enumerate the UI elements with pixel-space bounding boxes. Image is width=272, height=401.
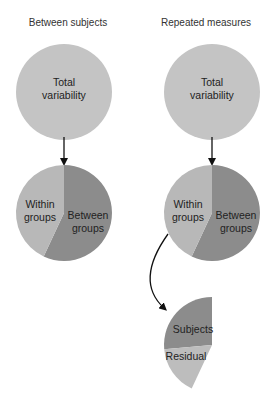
svg-text:Within: Within bbox=[173, 198, 202, 210]
svg-text:variability: variability bbox=[42, 89, 87, 101]
curved-arrow bbox=[150, 234, 168, 308]
total-variability-circle-right: Total variability bbox=[164, 44, 260, 140]
svg-text:Total: Total bbox=[201, 76, 223, 88]
svg-text:Total: Total bbox=[53, 76, 75, 88]
svg-text:variability: variability bbox=[190, 89, 235, 101]
diagram: Total variability Within groups Between … bbox=[0, 0, 272, 401]
svg-text:Within: Within bbox=[25, 198, 54, 210]
svg-text:Subjects: Subjects bbox=[173, 323, 213, 335]
svg-text:groups: groups bbox=[24, 211, 56, 223]
svg-text:groups: groups bbox=[72, 222, 104, 234]
svg-text:groups: groups bbox=[172, 211, 204, 223]
svg-text:Residual: Residual bbox=[166, 350, 207, 362]
pie-right: Within groups Between groups bbox=[164, 165, 260, 261]
svg-text:Between: Between bbox=[68, 209, 109, 221]
svg-text:Between: Between bbox=[216, 209, 257, 221]
total-variability-circle-left: Total variability bbox=[16, 44, 112, 140]
within-groups-split: Subjects Residual bbox=[164, 297, 213, 389]
svg-text:groups: groups bbox=[220, 222, 252, 234]
pie-left: Within groups Between groups bbox=[16, 165, 112, 261]
